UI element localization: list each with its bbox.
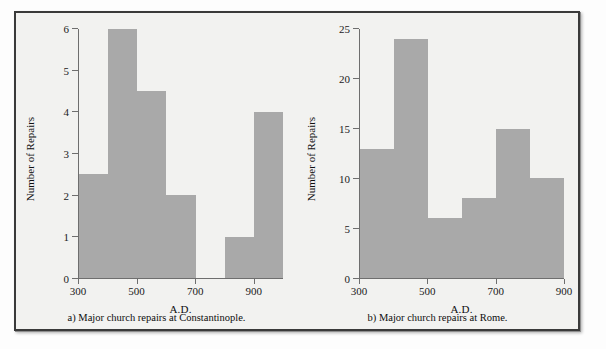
bar-group-b <box>360 29 564 278</box>
bar-group-a <box>79 29 283 278</box>
plot-area-b: 0510152025300500700900 <box>359 29 564 279</box>
y-tick-label-b-0: 0 <box>345 273 351 285</box>
y-tick-b-20 <box>353 78 359 79</box>
panel-b: Number of Repairs 0510152025300500700900… <box>297 13 578 329</box>
x-tick-b-500 <box>427 279 428 284</box>
y-tick-label-a-6: 6 <box>64 23 70 35</box>
y-tick-b-25 <box>353 28 359 29</box>
y-axis-title-b: Number of Repairs <box>305 117 317 201</box>
x-axis-line-b <box>359 278 564 279</box>
y-tick-label-a-5: 5 <box>64 65 70 77</box>
y-tick-label-a-4: 4 <box>64 106 70 118</box>
bar-slot <box>137 29 166 278</box>
y-tick-a-1 <box>72 236 78 237</box>
bar-slot <box>394 29 428 278</box>
y-tick-label-a-3: 3 <box>64 148 70 160</box>
y-tick-label-a-1: 1 <box>64 231 70 243</box>
y-tick-label-b-20: 20 <box>339 73 350 85</box>
x-tick-b-700 <box>496 279 497 284</box>
bar-slot <box>428 29 462 278</box>
bar-slot <box>196 29 225 278</box>
bar <box>137 91 166 278</box>
x-tick-label-a-700: 700 <box>187 285 204 297</box>
y-tick-b-5 <box>353 228 359 229</box>
y-tick-a-4 <box>72 111 78 112</box>
y-tick-a-6 <box>72 28 78 29</box>
x-tick-label-b-700: 700 <box>487 285 504 297</box>
bar-slot <box>166 29 195 278</box>
x-tick-label-b-500: 500 <box>419 285 436 297</box>
bar-slot <box>225 29 254 278</box>
x-tick-a-300 <box>78 279 79 284</box>
panel-a: Number of Repairs 0123456300500700900 A.… <box>16 13 297 329</box>
bar <box>254 112 283 278</box>
x-tick-label-a-300: 300 <box>70 285 87 297</box>
x-tick-label-a-900: 900 <box>245 285 262 297</box>
y-tick-label-b-25: 25 <box>339 23 350 35</box>
y-tick-b-10 <box>353 178 359 179</box>
bar <box>360 149 394 278</box>
bar <box>530 178 564 278</box>
bar <box>428 218 462 278</box>
figure-frame: Number of Repairs 0123456300500700900 A.… <box>14 11 580 331</box>
y-tick-label-a-0: 0 <box>64 273 70 285</box>
y-tick-label-a-2: 2 <box>64 190 70 202</box>
x-tick-a-700 <box>195 279 196 284</box>
bar-slot <box>108 29 137 278</box>
bar-slot <box>462 29 496 278</box>
bar <box>108 29 137 278</box>
y-axis-title-a: Number of Repairs <box>24 117 36 201</box>
y-tick-a-5 <box>72 70 78 71</box>
bar <box>394 39 428 278</box>
bar-slot <box>496 29 530 278</box>
figure-body: Number of Repairs 0123456300500700900 A.… <box>16 13 578 329</box>
x-tick-label-b-300: 300 <box>351 285 368 297</box>
y-tick-label-b-10: 10 <box>339 173 350 185</box>
bar <box>79 174 108 278</box>
bar-slot <box>254 29 283 278</box>
y-tick-b-15 <box>353 128 359 129</box>
x-tick-a-500 <box>137 279 138 284</box>
bar-slot <box>530 29 564 278</box>
y-tick-label-b-15: 15 <box>339 123 350 135</box>
x-tick-a-900 <box>254 279 255 284</box>
x-tick-label-b-900: 900 <box>556 285 573 297</box>
x-tick-b-900 <box>564 279 565 284</box>
caption-b: b) Major church repairs at Rome. <box>297 312 578 323</box>
plot-area-a: 0123456300500700900 <box>78 29 283 279</box>
y-tick-a-3 <box>72 153 78 154</box>
figure-page: Number of Repairs 0123456300500700900 A.… <box>0 0 606 349</box>
y-tick-label-b-5: 5 <box>345 223 351 235</box>
bar <box>166 195 195 278</box>
caption-a: a) Major church repairs at Constantinopl… <box>16 312 297 323</box>
bar <box>496 129 530 278</box>
x-tick-b-300 <box>359 279 360 284</box>
bar-slot <box>79 29 108 278</box>
bar <box>225 237 254 279</box>
x-tick-label-a-500: 500 <box>128 285 145 297</box>
bar-slot <box>360 29 394 278</box>
bar <box>462 198 496 278</box>
y-tick-a-2 <box>72 195 78 196</box>
x-axis-line-a <box>78 278 283 279</box>
